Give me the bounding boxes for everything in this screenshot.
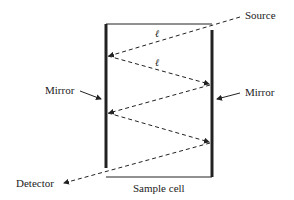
mirror-left-label: Mirror bbox=[45, 85, 74, 96]
multipass-cell-diagram bbox=[0, 0, 294, 200]
sample-cell-label: Sample cell bbox=[133, 183, 185, 194]
mirror-right-leader bbox=[217, 93, 240, 99]
mirror-right-label: Mirror bbox=[245, 87, 274, 98]
path-length-label-2: ℓ bbox=[155, 58, 159, 68]
source-label: Source bbox=[245, 10, 276, 21]
beam-segment-left-to-right-2 bbox=[108, 113, 209, 142]
beam-segment-right-to-left bbox=[109, 85, 210, 113]
beam-segment-source-to-left bbox=[109, 17, 240, 56]
path-length-label-1: ℓ bbox=[155, 29, 159, 39]
detector-label: Detector bbox=[16, 178, 54, 189]
mirror-left-leader bbox=[80, 91, 101, 99]
